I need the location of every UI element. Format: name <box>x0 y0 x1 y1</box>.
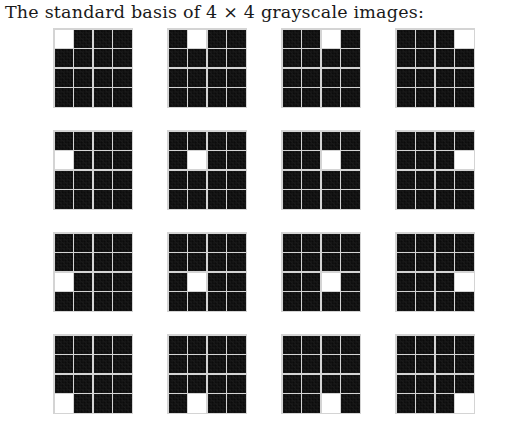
pixel-r3-c0 <box>283 88 301 106</box>
basis-image-e43 <box>281 334 361 414</box>
pixel-r3-c1 <box>416 292 434 310</box>
pixel-r2-c2 <box>208 171 226 189</box>
pixel-r1-c1 <box>74 151 92 169</box>
basis-image-e32 <box>167 232 247 312</box>
pixel-r0-c2 <box>322 234 340 252</box>
pixel-r2-c0 <box>169 375 187 393</box>
basis-image-e34 <box>395 232 475 312</box>
pixel-r0-c3 <box>227 30 245 48</box>
pixel-r0-c1 <box>302 30 320 48</box>
pixel-r2-c2 <box>436 171 454 189</box>
pixel-r2-c3 <box>227 375 245 393</box>
pixel-r0-c2 <box>436 132 454 150</box>
pixel-r2-c3 <box>227 171 245 189</box>
pixel-r1-c3 <box>113 49 131 67</box>
pixel-r3-c1 <box>416 394 434 412</box>
pixel-r2-c3 <box>227 69 245 87</box>
pixel-r3-c2 <box>322 394 340 412</box>
pixel-r0-c1 <box>188 30 206 48</box>
pixel-r3-c0 <box>55 394 73 412</box>
pixel-r3-c0 <box>397 394 415 412</box>
pixel-r1-c2 <box>322 355 340 373</box>
pixel-r0-c0 <box>283 132 301 150</box>
pixel-r2-c1 <box>74 375 92 393</box>
pixel-r1-c3 <box>113 253 131 271</box>
pixel-r2-c0 <box>283 171 301 189</box>
pixel-r0-c2 <box>94 336 112 354</box>
pixel-r2-c0 <box>397 273 415 291</box>
pixel-r0-c1 <box>74 30 92 48</box>
pixel-r1-c2 <box>94 253 112 271</box>
pixel-r3-c3 <box>113 88 131 106</box>
pixel-r0-c2 <box>208 336 226 354</box>
pixel-r1-c1 <box>188 151 206 169</box>
pixel-r1-c1 <box>188 355 206 373</box>
pixel-r1-c2 <box>94 49 112 67</box>
pixel-r0-c3 <box>455 234 473 252</box>
pixel-r0-c0 <box>169 336 187 354</box>
pixel-r2-c1 <box>302 375 320 393</box>
pixel-r2-c3 <box>227 273 245 291</box>
pixel-r1-c0 <box>397 253 415 271</box>
figure-caption: The standard basis of 4 × 4 grayscale im… <box>5 1 424 23</box>
pixel-r3-c0 <box>283 190 301 208</box>
pixel-r0-c1 <box>74 234 92 252</box>
pixel-r0-c1 <box>416 336 434 354</box>
pixel-r2-c2 <box>208 69 226 87</box>
pixel-r2-c2 <box>436 375 454 393</box>
pixel-r0-c1 <box>188 234 206 252</box>
pixel-r1-c0 <box>55 151 73 169</box>
basis-images-grid <box>53 28 477 418</box>
pixel-r0-c0 <box>283 234 301 252</box>
pixel-r3-c1 <box>416 88 434 106</box>
basis-image-e11 <box>53 28 133 108</box>
pixel-r3-c2 <box>208 88 226 106</box>
pixel-r0-c1 <box>416 234 434 252</box>
pixel-r1-c1 <box>416 355 434 373</box>
pixel-r2-c0 <box>397 171 415 189</box>
pixel-r3-c2 <box>94 394 112 412</box>
pixel-r3-c1 <box>302 292 320 310</box>
pixel-r1-c2 <box>436 151 454 169</box>
pixel-r0-c1 <box>188 132 206 150</box>
pixel-r0-c0 <box>169 132 187 150</box>
pixel-r2-c0 <box>169 273 187 291</box>
basis-image-e42 <box>167 334 247 414</box>
pixel-r0-c1 <box>302 336 320 354</box>
basis-image-e12 <box>167 28 247 108</box>
pixel-r1-c3 <box>341 253 359 271</box>
pixel-r1-c1 <box>74 253 92 271</box>
pixel-r2-c3 <box>341 171 359 189</box>
pixel-r3-c0 <box>283 394 301 412</box>
pixel-r1-c3 <box>113 355 131 373</box>
basis-image-e21 <box>53 130 133 210</box>
pixel-r2-c3 <box>113 273 131 291</box>
pixel-r3-c0 <box>169 394 187 412</box>
pixel-r1-c1 <box>302 253 320 271</box>
pixel-r2-c1 <box>416 375 434 393</box>
basis-image-e22 <box>167 130 247 210</box>
pixel-r1-c2 <box>208 355 226 373</box>
pixel-r3-c2 <box>208 292 226 310</box>
pixel-r1-c3 <box>113 151 131 169</box>
pixel-r3-c3 <box>113 394 131 412</box>
pixel-r1-c0 <box>169 49 187 67</box>
pixel-r3-c0 <box>397 190 415 208</box>
pixel-r1-c0 <box>283 151 301 169</box>
pixel-r3-c1 <box>302 394 320 412</box>
pixel-r1-c0 <box>283 49 301 67</box>
pixel-r2-c3 <box>455 375 473 393</box>
pixel-r0-c1 <box>416 132 434 150</box>
pixel-r0-c3 <box>341 234 359 252</box>
pixel-r1-c0 <box>55 253 73 271</box>
pixel-r2-c1 <box>74 273 92 291</box>
pixel-r0-c2 <box>94 132 112 150</box>
pixel-r2-c3 <box>113 171 131 189</box>
pixel-r2-c1 <box>74 69 92 87</box>
pixel-r1-c2 <box>436 49 454 67</box>
pixel-r1-c1 <box>302 49 320 67</box>
pixel-r3-c1 <box>188 394 206 412</box>
pixel-r3-c2 <box>94 190 112 208</box>
basis-image-e13 <box>281 28 361 108</box>
pixel-r2-c0 <box>55 69 73 87</box>
